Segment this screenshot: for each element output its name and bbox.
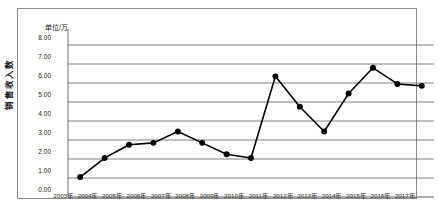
chart-plot-frame: 单位/万 0.001.002.003.004.005.006.007.008.0… [17,8,417,199]
figure-caption [0,203,431,214]
data-point-marker [77,174,83,180]
line-series-plot [18,9,438,223]
data-point-marker [321,128,327,134]
data-point-marker [419,83,425,89]
data-point-marker [272,73,278,79]
data-point-marker [175,128,181,134]
data-point-marker [248,155,254,161]
y-axis-title: 销售收入数 [2,49,16,119]
data-point-marker [394,81,400,87]
data-point-marker [370,65,376,71]
gridlines [68,45,434,197]
data-point-marker [199,140,205,146]
data-point-marker [150,140,156,146]
data-point-markers [77,65,425,180]
data-point-marker [346,90,352,96]
data-point-marker [126,142,132,148]
data-point-marker [224,151,230,157]
data-point-marker [297,104,303,110]
data-point-marker [102,155,108,161]
